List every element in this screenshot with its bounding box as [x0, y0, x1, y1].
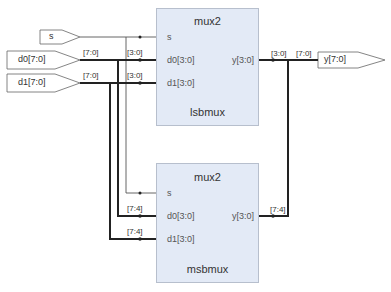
mux-block-lsbmux[interactable]: mux2 s d0[3:0] d1[3:0] y[3:0] lsbmux — [156, 8, 259, 126]
bus-label-msb-d1: [7:4] — [127, 227, 143, 236]
mux-block-msbmux[interactable]: mux2 s d0[3:0] d1[3:0] y[3:0] msbmux — [156, 163, 259, 283]
pin-s: s — [167, 32, 172, 42]
bus-label-d0-in: [7:0] — [83, 48, 99, 57]
bus-label-d1-in: [7:0] — [83, 71, 99, 80]
block-type-label: mux2 — [157, 15, 258, 27]
input-port-s[interactable] — [40, 30, 80, 44]
pin-s: s — [167, 188, 172, 198]
bus-label-lsb-d0: [3:0] — [127, 48, 143, 57]
bus-label-y-out: [7:0] — [296, 49, 312, 58]
input-label-d0: d0[7:0] — [18, 54, 46, 64]
pin-d0: d0[3:0] — [167, 211, 195, 221]
block-instance-name: msbmux — [157, 263, 258, 275]
block-type-label: mux2 — [157, 171, 258, 183]
pin-d0: d0[3:0] — [167, 55, 195, 65]
pin-y: y[3:0] — [232, 55, 254, 65]
bus-label-msb-y: [7:4] — [270, 205, 286, 214]
input-label-s: s — [49, 31, 54, 41]
pin-y: y[3:0] — [232, 211, 254, 221]
output-label-y: y[7:0] — [324, 54, 346, 64]
bus-label-lsb-y: [3:0] — [271, 49, 287, 58]
input-label-d1: d1[7:0] — [18, 77, 46, 87]
block-instance-name: lsbmux — [157, 106, 258, 118]
pin-d1: d1[3:0] — [167, 234, 195, 244]
pin-d1: d1[3:0] — [167, 78, 195, 88]
bus-label-lsb-d1: [3:0] — [127, 71, 143, 80]
bus-label-msb-d0: [7:4] — [127, 204, 143, 213]
wire-y-bus — [259, 58, 318, 218]
